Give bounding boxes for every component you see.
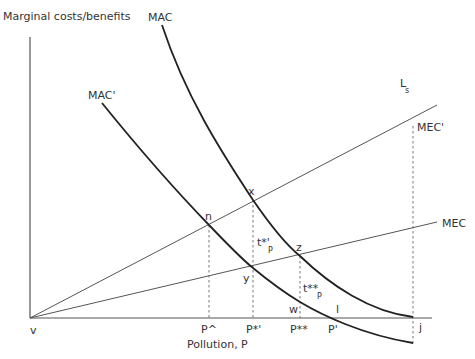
pollution-diagram: Marginal costs/benefits MAC MAC' L s MEC… xyxy=(0,0,475,359)
mac-prime-curve xyxy=(102,103,413,343)
tick-p-star-star: P** xyxy=(290,323,308,336)
ls-line xyxy=(30,105,437,318)
mec-prime-label: MEC' xyxy=(417,121,444,134)
x-axis-label: Pollution, P xyxy=(187,338,248,351)
point-x-label: x xyxy=(248,185,255,198)
tick-p-star-prime: P*' xyxy=(246,323,261,336)
y-axis-label: Marginal costs/benefits xyxy=(3,10,131,23)
point-l-label: l xyxy=(336,303,339,316)
tax-star-prime-subscript: P xyxy=(268,246,273,255)
point-y-label: y xyxy=(243,272,250,285)
mac-prime-label: MAC' xyxy=(88,89,116,102)
origin-v-label: v xyxy=(30,324,37,337)
mec-line xyxy=(30,222,437,318)
ls-subscript: s xyxy=(405,86,409,95)
tick-p-prime: P' xyxy=(328,323,338,336)
point-j-label: j xyxy=(418,321,422,334)
point-w-label: w xyxy=(289,303,298,316)
mec-label: MEC xyxy=(442,217,466,230)
mac-curve xyxy=(162,25,413,317)
tax-star-star-subscript: P xyxy=(317,292,322,301)
point-z-label: z xyxy=(296,241,302,254)
mac-label: MAC xyxy=(148,11,173,24)
point-n-label: n xyxy=(205,210,212,223)
tick-p-hat: P^ xyxy=(201,323,217,336)
